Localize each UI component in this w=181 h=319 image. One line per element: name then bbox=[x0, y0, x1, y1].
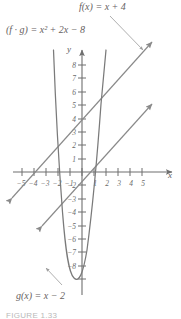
svg-text:2: 2 bbox=[72, 141, 76, 150]
svg-text:−6: −6 bbox=[67, 235, 76, 244]
annotation-f: f(x) = x + 4 bbox=[79, 2, 126, 12]
svg-text:−4: −4 bbox=[29, 179, 38, 188]
curve-g bbox=[42, 104, 152, 226]
y-axis-tick-labels: 8 7 6 5 4 3 2 1 −2 −3 −4 −5 −6 −7 −8 bbox=[67, 61, 76, 271]
leader-g bbox=[46, 268, 62, 285]
svg-text:−3: −3 bbox=[41, 179, 50, 188]
svg-text:4: 4 bbox=[129, 179, 133, 188]
svg-text:−7: −7 bbox=[67, 248, 76, 257]
coordinate-plot: −5 −4 −3 −2 −1 1 2 3 4 5 bbox=[0, 0, 181, 319]
svg-text:5: 5 bbox=[72, 101, 76, 110]
figure-caption: FIGURE 1.33 bbox=[6, 311, 57, 319]
svg-text:5: 5 bbox=[141, 179, 145, 188]
svg-text:8: 8 bbox=[72, 61, 76, 70]
x-axis-label: x bbox=[168, 170, 172, 180]
svg-text:4: 4 bbox=[72, 115, 76, 124]
svg-text:6: 6 bbox=[72, 88, 76, 97]
svg-text:2: 2 bbox=[105, 179, 109, 188]
svg-text:−2: −2 bbox=[67, 181, 76, 190]
leader-lines bbox=[46, 16, 143, 285]
curve-f-times-g bbox=[54, 50, 107, 279]
svg-text:−4: −4 bbox=[67, 208, 76, 217]
y-axis-label: y bbox=[67, 44, 71, 54]
svg-text:−5: −5 bbox=[67, 222, 76, 231]
leader-f bbox=[110, 16, 143, 50]
svg-text:1: 1 bbox=[72, 155, 76, 164]
annotation-g: g(x) = x − 2 bbox=[16, 291, 65, 301]
svg-text:3: 3 bbox=[116, 179, 121, 188]
svg-text:7: 7 bbox=[72, 74, 76, 83]
figure-container: −5 −4 −3 −2 −1 1 2 3 4 5 bbox=[0, 0, 181, 319]
annotation-f-times-g: (f · g) = x² + 2x − 8 bbox=[6, 25, 85, 35]
